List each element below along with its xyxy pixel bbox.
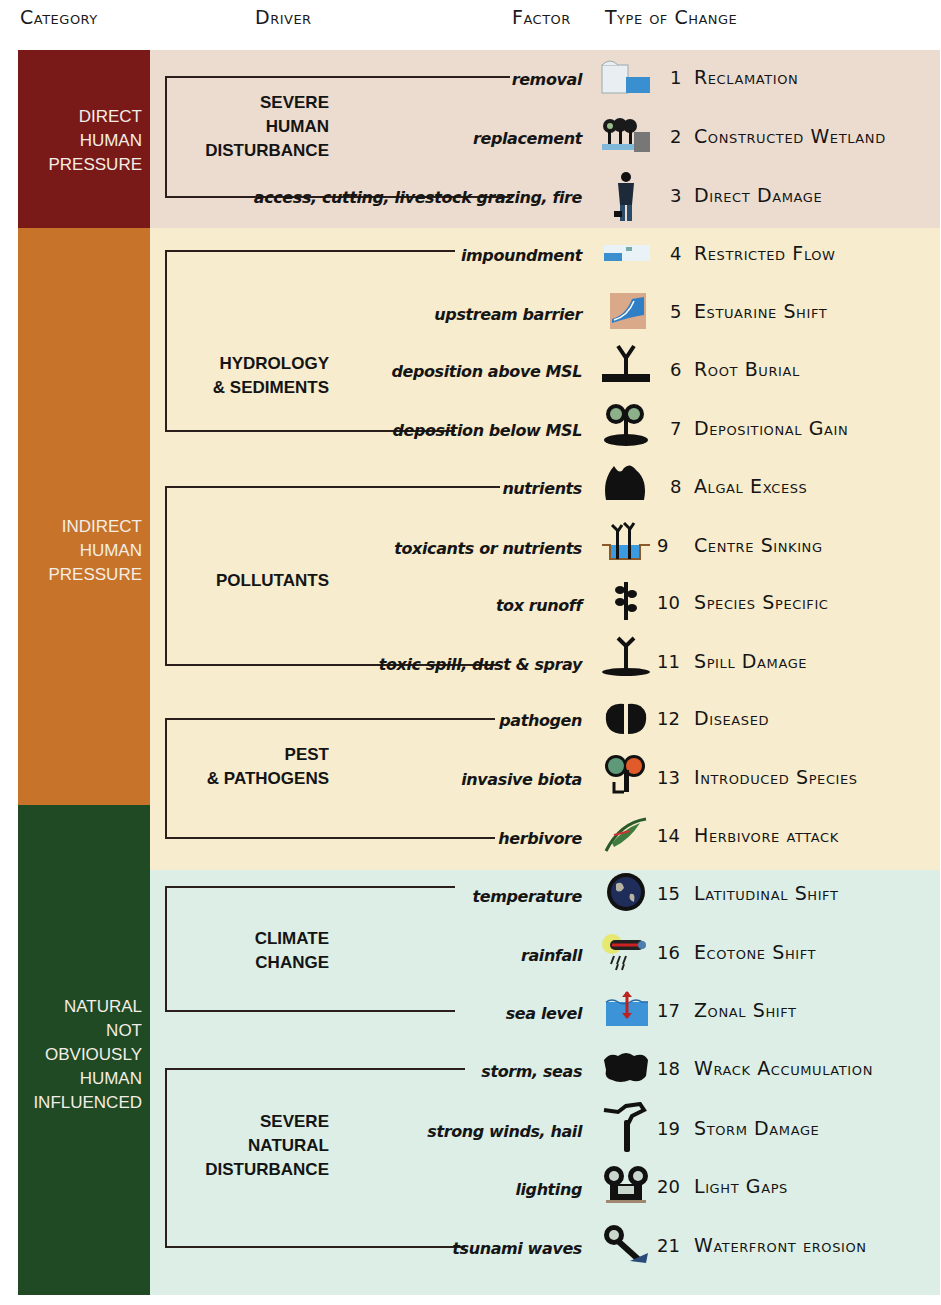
type-of-change: Species Specific xyxy=(694,591,829,613)
category-line: NATURAL xyxy=(18,995,142,1019)
driver-severe-natural: SEVERE NATURAL DISTURBANCE xyxy=(205,1110,329,1182)
type-of-change: Light Gaps xyxy=(694,1175,788,1197)
row-number: 17 xyxy=(657,1000,680,1021)
category-direct: DIRECT HUMAN PRESSURE xyxy=(18,50,150,228)
driver-climate: CLIMATE CHANGE xyxy=(255,927,329,975)
spill-plant-icon xyxy=(600,634,652,678)
factor-label: impoundment xyxy=(461,246,582,265)
chewed-leaf-icon xyxy=(600,813,652,857)
type-of-change: Depositional Gain xyxy=(694,417,848,439)
header-category: Category xyxy=(20,6,98,28)
row-number: 4 xyxy=(670,243,681,264)
row-number: 14 xyxy=(657,825,680,846)
type-of-change: Latitudinal Shift xyxy=(694,882,839,904)
factor-label: pathogen xyxy=(499,711,582,730)
broken-tree-icon xyxy=(600,1102,652,1154)
wrack-icon xyxy=(600,1046,652,1090)
factor-label: rainfall xyxy=(521,946,582,965)
reclamation-icon xyxy=(600,55,652,99)
row-number: 1 xyxy=(670,67,681,88)
driver-line: NATURAL xyxy=(205,1134,329,1158)
type-of-change: Restricted Flow xyxy=(694,242,836,264)
driver-line: SEVERE xyxy=(205,91,329,115)
diseased-leaves-icon xyxy=(600,694,652,738)
row-number: 8 xyxy=(670,476,681,497)
type-of-change: Root Burial xyxy=(694,358,800,380)
header-type-of-change: Type of Change xyxy=(605,6,737,28)
category-indirect: INDIRECT HUMAN PRESSURE xyxy=(18,228,150,805)
row-number: 3 xyxy=(670,185,681,206)
category-line: OBVIOUSLY xyxy=(18,1043,142,1067)
driver-line: CLIMATE xyxy=(255,927,329,951)
algae-icon xyxy=(600,460,652,504)
type-of-change: Wrack Accumulation xyxy=(694,1057,873,1079)
type-of-change: Ecotone Shift xyxy=(694,941,816,963)
factor-label: strong winds, hail xyxy=(427,1122,582,1141)
tree-mound-icon xyxy=(600,402,652,446)
type-of-change: Centre Sinking xyxy=(694,534,823,556)
row-number: 2 xyxy=(670,126,681,147)
type-of-change: Storm Damage xyxy=(694,1117,819,1139)
factor-label: temperature xyxy=(472,887,582,906)
driver-line: DISTURBANCE xyxy=(205,1158,329,1182)
driver-severe-human: SEVERE HUMAN DISTURBANCE xyxy=(205,91,329,163)
type-of-change: Spill Damage xyxy=(694,650,807,672)
driver-line: & SEDIMENTS xyxy=(213,376,329,400)
factor-label: toxic spill, dust & spray xyxy=(379,655,582,674)
row-number: 18 xyxy=(657,1058,680,1079)
type-of-change: Waterfront erosion xyxy=(694,1234,867,1256)
row-number: 12 xyxy=(657,708,680,729)
row-number: 16 xyxy=(657,942,680,963)
driver-pest: PEST & PATHOGENS xyxy=(207,743,329,791)
type-of-change: Reclamation xyxy=(694,66,798,88)
driver-line: POLLUTANTS xyxy=(216,569,329,593)
branch-icon xyxy=(600,578,652,622)
driver-pollutants: POLLUTANTS xyxy=(216,569,329,593)
category-line: HUMAN xyxy=(18,539,142,563)
type-of-change: Diseased xyxy=(694,707,769,729)
factor-label: replacement xyxy=(473,129,582,148)
driver-line: CHANGE xyxy=(255,951,329,975)
type-of-change: Direct Damage xyxy=(694,184,822,206)
header-driver: Driver xyxy=(255,6,312,28)
row-number: 10 xyxy=(657,592,680,613)
category-line: PRESSURE xyxy=(18,563,142,587)
factor-label: lighting xyxy=(515,1180,582,1199)
type-of-change: Herbivore attack xyxy=(694,824,839,846)
category-line: HUMAN xyxy=(18,1067,142,1091)
driver-line: & PATHOGENS xyxy=(207,767,329,791)
rain-cloud-icon xyxy=(600,930,652,974)
bracket-hydrology xyxy=(165,250,455,432)
type-of-change: Constructed Wetland xyxy=(694,125,886,147)
category-line: DIRECT xyxy=(18,105,142,129)
factor-label: removal xyxy=(512,70,582,89)
factor-label: toxicants or nutrients xyxy=(394,539,582,558)
sinking-plants-icon xyxy=(600,521,652,565)
driver-line: DISTURBANCE xyxy=(205,139,329,163)
category-line: HUMAN xyxy=(18,129,142,153)
factor-label: deposition below MSL xyxy=(392,421,582,440)
fallen-tree-icon xyxy=(600,1223,652,1267)
restricted-flow-icon xyxy=(600,231,652,275)
type-of-change: Introduced Species xyxy=(694,766,858,788)
constructed-wetland-icon xyxy=(600,114,652,158)
factor-label: storm, seas xyxy=(481,1062,582,1081)
factor-label: invasive biota xyxy=(461,770,582,789)
factor-label: herbivore xyxy=(498,829,582,848)
person-icon xyxy=(600,171,652,223)
row-number: 7 xyxy=(670,418,681,439)
category-line: INFLUENCED xyxy=(18,1091,142,1115)
root-burial-icon xyxy=(600,344,652,388)
factor-label: tsunami waves xyxy=(452,1239,582,1258)
category-line: PRESSURE xyxy=(18,153,142,177)
estuary-icon xyxy=(600,289,652,333)
driver-line: PEST xyxy=(207,743,329,767)
row-number: 21 xyxy=(657,1235,680,1256)
row-number: 13 xyxy=(657,767,680,788)
row-number: 6 xyxy=(670,359,681,380)
type-of-change: Zonal Shift xyxy=(694,999,797,1021)
type-of-change: Algal Excess xyxy=(694,475,807,497)
row-number: 20 xyxy=(657,1176,680,1197)
row-number: 19 xyxy=(657,1118,680,1139)
factor-label: tox runoff xyxy=(496,596,582,615)
